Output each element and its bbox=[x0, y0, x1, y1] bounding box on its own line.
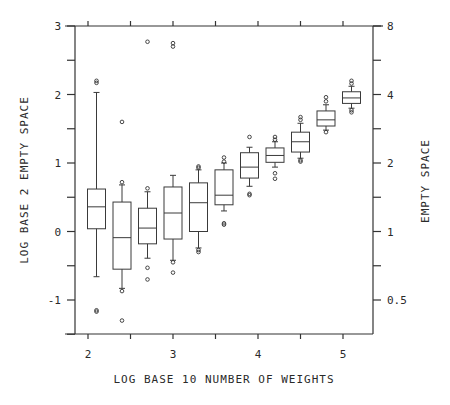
outlier-point bbox=[324, 100, 328, 104]
box-group bbox=[113, 120, 131, 322]
outlier-point bbox=[120, 180, 124, 184]
y-tick-label-left: -1 bbox=[48, 294, 61, 307]
x-tick-label: 3 bbox=[170, 348, 177, 361]
outlier-point bbox=[120, 289, 124, 293]
x-tick-label: 2 bbox=[85, 348, 92, 361]
y-axis-label-left: LOG BASE 2 EMPTY SPACE bbox=[18, 96, 31, 264]
x-tick-label: 5 bbox=[340, 348, 347, 361]
outlier-point bbox=[222, 156, 226, 160]
box-iqr bbox=[113, 202, 131, 269]
box-group bbox=[164, 41, 182, 274]
box-iqr bbox=[139, 208, 157, 244]
y-tick-label-left: 1 bbox=[54, 157, 61, 170]
outlier-point bbox=[171, 261, 175, 265]
box-iqr bbox=[88, 189, 106, 229]
box-series bbox=[88, 40, 361, 322]
box-group bbox=[215, 156, 233, 227]
outlier-point bbox=[120, 120, 124, 124]
x-tick-label: 4 bbox=[255, 348, 262, 361]
box-group bbox=[88, 79, 106, 313]
y-tick-label-right: 2 bbox=[387, 157, 394, 170]
outlier-point bbox=[146, 266, 150, 270]
y-tick-label-right: 0.5 bbox=[387, 294, 407, 307]
outlier-point bbox=[146, 187, 150, 191]
box-group bbox=[190, 165, 208, 254]
y-tick-label-left: 0 bbox=[54, 226, 61, 239]
box-group bbox=[292, 115, 310, 163]
box-group bbox=[317, 95, 335, 134]
box-group bbox=[343, 79, 361, 114]
box-iqr bbox=[190, 183, 208, 232]
outlier-point bbox=[120, 319, 124, 323]
y-tick-label-left: 2 bbox=[54, 89, 61, 102]
y-tick-label-left: 3 bbox=[54, 20, 61, 33]
y-tick-label-right: 4 bbox=[387, 89, 394, 102]
y-tick-label-right: 8 bbox=[387, 20, 394, 33]
outlier-point bbox=[273, 171, 277, 175]
boxplot-chart: 2345-101230.51248 LOG BASE 10 NUMBER OF … bbox=[0, 0, 450, 405]
x-axis-label: LOG BASE 10 NUMBER OF WEIGHTS bbox=[113, 373, 334, 386]
box-iqr bbox=[241, 153, 259, 178]
box-group bbox=[139, 40, 157, 281]
plot-frame: 2345-101230.51248 bbox=[48, 20, 407, 361]
box-group bbox=[266, 135, 284, 180]
outlier-point bbox=[146, 278, 150, 282]
y-tick-label-right: 1 bbox=[387, 226, 394, 239]
box-iqr bbox=[317, 111, 335, 126]
outlier-point bbox=[171, 271, 175, 275]
y-axis-label-right: EMPTY SPACE bbox=[419, 139, 432, 223]
box-group bbox=[241, 135, 259, 197]
outlier-point bbox=[248, 135, 252, 139]
outlier-point bbox=[146, 40, 150, 44]
outlier-point bbox=[324, 95, 328, 99]
box-iqr bbox=[215, 170, 233, 205]
outlier-point bbox=[273, 177, 277, 181]
outlier-point bbox=[324, 130, 328, 134]
